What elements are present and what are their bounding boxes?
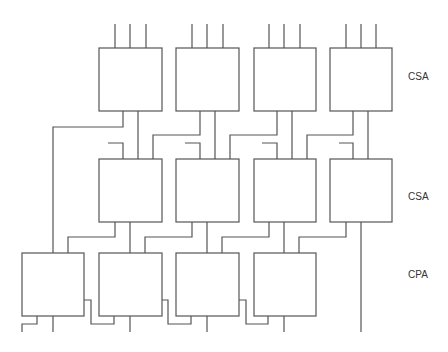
csa-box-r2-c4 xyxy=(330,159,392,222)
csa-box-r1-c1 xyxy=(99,48,162,111)
csa-cpa-diagram: CSA CSA CPA xyxy=(0,0,448,352)
csa-box-r2-c3 xyxy=(254,159,316,222)
row3-label: CPA xyxy=(408,269,428,280)
row1-label: CSA xyxy=(408,71,429,82)
row3-cpa: CPA xyxy=(22,253,428,316)
cpa-box-c4 xyxy=(254,253,316,316)
cpa-box-c3 xyxy=(176,253,239,316)
row1-csa: CSA xyxy=(99,24,429,111)
csa-box-r1-c3 xyxy=(254,48,316,111)
csa-box-r1-c2 xyxy=(176,48,239,111)
row1-inputs xyxy=(115,24,376,48)
csa-box-r2-c1 xyxy=(99,159,162,222)
row2-csa: CSA xyxy=(99,159,429,222)
csa-box-r1-c4 xyxy=(330,48,392,111)
row2-label: CSA xyxy=(408,191,429,202)
csa-box-r2-c2 xyxy=(176,159,239,222)
cpa-box-c1 xyxy=(22,253,84,316)
cpa-box-c2 xyxy=(99,253,162,316)
